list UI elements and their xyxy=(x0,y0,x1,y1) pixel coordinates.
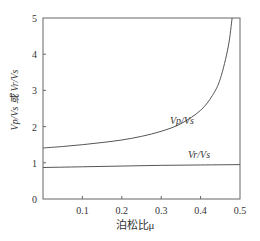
x-axis-label: 泊松比μ xyxy=(116,218,155,231)
x-tick-label: 0.5 xyxy=(234,205,247,216)
plot-frame xyxy=(43,18,240,199)
y-tick-label: 4 xyxy=(32,49,37,60)
y-axis-label: Vp/Vs 或 Vr/Vs xyxy=(9,69,20,130)
x-tick-label: 0.3 xyxy=(155,205,168,216)
x-tick-label: 0.2 xyxy=(116,205,129,216)
y-tick-label: 5 xyxy=(32,13,37,24)
y-tick-label: 2 xyxy=(32,122,37,133)
x-tick-label: 0.4 xyxy=(194,205,207,216)
vr-label: Vr/Vs xyxy=(188,149,210,160)
chart: 012345 0.10.20.30.40.5 Vp/Vs Vr/Vs 泊松比μ … xyxy=(0,0,260,241)
y-tick-label: 0 xyxy=(32,194,37,205)
series-lines xyxy=(43,18,240,168)
y-tick-label: 1 xyxy=(32,158,37,169)
series-line-vr-vs xyxy=(43,165,240,168)
x-tick-label: 0.1 xyxy=(76,205,89,216)
vp-label: Vp/Vs xyxy=(170,115,194,126)
y-tick-label: 3 xyxy=(32,85,37,96)
y-axis: 012345 xyxy=(32,13,46,205)
series-line-vp-vs xyxy=(43,18,232,148)
